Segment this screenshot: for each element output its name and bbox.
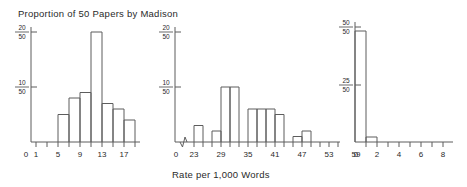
panel-3-xlabel-8: 8: [441, 150, 446, 159]
panel-1-xlabel-9: 9: [78, 150, 83, 159]
panel-3-xlabel-4: 4: [397, 150, 402, 159]
panel-1-bar-5-7: [58, 115, 69, 143]
panel-3: 50 50 25 50 0 2 4 6 8: [339, 19, 453, 159]
panel-2-ytick-label-20: 20 50: [159, 24, 173, 40]
panel-1-bar-13-15: [102, 104, 113, 143]
panel-3-bar-0-1: [355, 31, 366, 142]
panel-2-bar-41-43: [275, 115, 284, 143]
panel-1: 20 50 10 50 0 1 5 9 1: [15, 24, 140, 159]
panel-2-xlabel-29: 29: [217, 150, 226, 159]
panel-3-ytick-label-25: 25 50: [339, 77, 353, 93]
panel-2-bar-35-37: [248, 109, 257, 142]
panel-3-ytick-50-numerator: 50: [342, 19, 350, 26]
panel-3-xlabel-2: 2: [375, 150, 380, 159]
panel-2-bar-45-47: [293, 137, 302, 143]
histogram-figure: Proportion of 50 Papers by Madison 20 50…: [0, 0, 467, 187]
panel-2-xlabel-23: 23: [190, 150, 199, 159]
panel-2-bar-39-41: [266, 109, 275, 142]
figure-canvas: Proportion of 50 Papers by Madison 20 50…: [0, 0, 467, 187]
panel-1-bar-11-13: [91, 32, 102, 142]
panel-1-ytick-label-10: 10 50: [15, 79, 29, 95]
panel-2-bar-37-39: [257, 109, 266, 142]
panel-1-bar-9-11: [80, 93, 91, 143]
panel-2-bar-23-25: [194, 126, 203, 143]
panel-1-ytick-10-numerator: 10: [18, 79, 26, 86]
panel-2-xlabel-35: 35: [244, 150, 253, 159]
panel-2-ytick-20-denominator: 50: [162, 33, 170, 40]
panel-3-ytick-50-denominator: 50: [342, 28, 350, 35]
panel-1-xlabel-1: 1: [34, 150, 39, 159]
panel-2-bar-27-29: [212, 131, 221, 142]
panel-1-xlabel-13: 13: [98, 150, 107, 159]
panel-1-ytick-10-denominator: 50: [18, 88, 26, 95]
panel-3-xlabel-6: 6: [419, 150, 424, 159]
panel-2-xlabel-0: 0: [174, 150, 179, 159]
panel-3-bar-1-2: [366, 137, 377, 142]
panel-1-bar-7-9: [69, 98, 80, 142]
panel-3-ytick-25-numerator: 25: [342, 77, 350, 84]
panel-3-xlabel-0: 0: [354, 150, 359, 159]
panel-2-ytick-20-numerator: 20: [162, 24, 170, 31]
panel-2-bar-47-49: [302, 131, 311, 142]
panel-1-ytick-label-20: 20 50: [15, 24, 29, 40]
panel-2-bar-29-31: [221, 87, 230, 142]
panel-1-ytick-20-numerator: 20: [18, 24, 26, 31]
panel-2-ytick-10-denominator: 50: [162, 88, 170, 95]
panel-2-xlabel-53: 53: [325, 150, 334, 159]
panel-1-ytick-20-denominator: 50: [18, 33, 26, 40]
panel-2: 20 50 10 50: [159, 24, 361, 159]
panel-1-xlabel-5: 5: [56, 150, 61, 159]
panel-1-xlabel-17b: 17: [120, 150, 129, 159]
panel-3-ytick-25-denominator: 50: [342, 86, 350, 93]
panel-1-bar-17-19: [124, 120, 135, 142]
panel-2-ytick-label-10: 10 50: [159, 79, 173, 95]
panel-3-ytick-label-50: 50 50: [339, 19, 353, 35]
panel-1-bar-15-17: [113, 109, 124, 142]
panel-2-ytick-10-numerator: 10: [162, 79, 170, 86]
panel-1-xlabel-0: 0: [24, 150, 29, 159]
figure-xlabel: Rate per 1,000 Words: [172, 169, 270, 180]
panel-2-xlabel-41: 41: [271, 150, 280, 159]
panel-2-xlabel-47: 47: [298, 150, 307, 159]
figure-title: Proportion of 50 Papers by Madison: [18, 8, 178, 19]
panel-2-bar-31-33: [230, 87, 239, 142]
